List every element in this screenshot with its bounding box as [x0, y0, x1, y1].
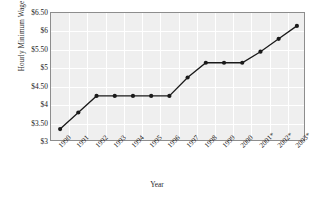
x-axis-tick-label: 2003* [294, 131, 312, 149]
x-axis-tick-label: 2000 [239, 134, 255, 150]
x-axis-tick-label: 1995 [148, 134, 164, 150]
x-axis-tick-label: 1992 [94, 134, 110, 150]
x-axis-tick-label: 1999 [221, 134, 237, 150]
x-axis-tick-label: 2002* [276, 131, 294, 149]
x-axis-tick-label: 1996 [166, 134, 182, 150]
x-axis-tick-label: 1991 [75, 134, 91, 150]
x-axis-tick-label: 1993 [112, 134, 128, 150]
x-axis-tick-label: 1998 [203, 134, 219, 150]
x-axis-tick-label: 1997 [185, 134, 201, 150]
x-axis-title: Year [0, 180, 314, 189]
x-axis-tick-label: 1990 [57, 134, 73, 150]
x-axis-tick-label: 1994 [130, 134, 146, 150]
x-axis-tick-labels: 1990199119921993199419951996199719981999… [0, 0, 314, 198]
x-axis-tick-label: 2001* [258, 131, 276, 149]
chart-container: Hourly Minimum Wage $3$3.50$4$4.50$5$5.5… [0, 0, 314, 198]
